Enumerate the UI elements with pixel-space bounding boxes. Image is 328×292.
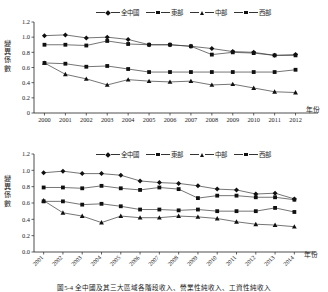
chart-top: 全中國東部中部西部 變異係數 年份 00.20.40.60.81.01.2200… (0, 0, 328, 145)
data-point-東部-2011 (235, 209, 239, 213)
x-tick-label: 2005 (109, 254, 122, 267)
data-point-西部-2005 (147, 43, 151, 47)
data-point-東部-2013 (273, 206, 277, 210)
data-point-東部-2003 (80, 203, 84, 207)
x-tick-label: 2001 (32, 254, 45, 267)
data-point-全中國-2008 (176, 181, 181, 186)
data-point-東部-2011 (273, 70, 277, 74)
data-point-東部-2006 (168, 70, 172, 74)
x-tick-label: 2004 (89, 254, 102, 267)
y-tick-label: 0.4 (22, 79, 31, 86)
data-point-全中國-2004 (99, 171, 104, 176)
x-tick-label: 2013 (263, 254, 276, 267)
y-tick-label: 1.0 (22, 33, 30, 40)
data-point-東部-2010 (215, 209, 219, 213)
data-point-全中國-2000 (42, 33, 47, 38)
y-tick-label: 1.2 (22, 18, 30, 25)
data-point-中部-2008 (176, 214, 181, 218)
data-point-中部-2009 (230, 82, 235, 86)
data-point-東部-2001 (63, 62, 67, 66)
data-point-全中國-2005 (118, 173, 123, 178)
x-tick-label: 2008 (167, 254, 180, 267)
x-tick-label: 2004 (122, 116, 135, 123)
data-point-東部-2014 (292, 210, 296, 214)
data-point-西部-2012 (254, 195, 258, 199)
x-tick-label: 2008 (206, 116, 219, 123)
data-point-西部-2005 (119, 186, 123, 190)
data-point-西部-2009 (196, 196, 200, 200)
data-point-西部-2004 (126, 42, 130, 46)
data-point-西部-2002 (61, 186, 65, 190)
x-tick-label: 2007 (147, 254, 160, 267)
x-tick-label: 2005 (143, 116, 156, 123)
y-tick-label: 0.6 (22, 199, 30, 206)
x-tick-label: 2012 (244, 254, 257, 267)
data-point-全中國-2009 (195, 183, 200, 188)
data-point-東部-2004 (100, 202, 104, 206)
data-point-西部-2002 (84, 44, 88, 48)
x-tick-label: 2010 (205, 254, 218, 267)
data-point-西部-2006 (168, 43, 172, 47)
plot-area-top: 00.20.40.60.81.01.2200020012002200320042… (0, 0, 328, 145)
x-tick-label: 2002 (80, 116, 93, 123)
data-point-西部-2001 (63, 43, 67, 47)
data-point-中部-2005 (118, 214, 123, 218)
data-point-西部-2003 (105, 39, 109, 43)
x-tick-label: 2011 (268, 116, 280, 123)
data-point-東部-2012 (294, 68, 298, 72)
x-tick-label: 2000 (38, 116, 51, 123)
data-point-西部-2000 (43, 43, 47, 47)
plot-area-bottom: 0.00.20.40.60.81.01.22001200220032004200… (0, 145, 328, 278)
data-point-西部-2008 (177, 187, 181, 191)
data-point-東部-2002 (61, 199, 65, 203)
data-point-全中國-2004 (126, 37, 131, 42)
data-point-全中國-2003 (80, 171, 85, 176)
x-tick-label: 2014 (282, 254, 295, 267)
data-point-西部-2009 (231, 50, 235, 54)
data-point-東部-2008 (177, 208, 181, 212)
data-point-全中國-2013 (273, 191, 278, 196)
data-point-全中國-2002 (60, 169, 65, 174)
data-point-西部-2010 (215, 194, 219, 198)
x-tick-label: 2009 (186, 254, 199, 267)
data-point-中部-2004 (126, 77, 131, 81)
x-tick-label: 2011 (225, 254, 238, 267)
data-point-全中國-2008 (209, 46, 214, 51)
data-point-東部-2007 (157, 208, 161, 212)
y-tick-label: 0.2 (22, 94, 30, 101)
data-point-西部-2007 (157, 186, 161, 190)
series-line-中部 (44, 63, 295, 93)
data-point-東部-2012 (254, 209, 258, 213)
data-point-東部-2005 (119, 204, 123, 208)
chart-bottom: 全中國東部中部西部 變異係數 年份 0.00.20.40.60.81.01.22… (0, 145, 328, 278)
y-tick-label: 1.0 (22, 167, 30, 174)
x-tick-label: 2003 (70, 254, 83, 267)
data-point-東部-2004 (126, 67, 130, 71)
data-point-西部-2011 (235, 194, 239, 198)
data-point-西部-2012 (294, 53, 298, 57)
x-tick-label: 2010 (247, 116, 260, 123)
y-tick-label: 0.8 (22, 183, 30, 190)
data-point-東部-2009 (231, 70, 235, 74)
data-point-東部-2009 (196, 208, 200, 212)
data-point-東部-2005 (147, 70, 151, 74)
data-point-全中國-2007 (157, 180, 162, 185)
data-point-西部-2011 (273, 53, 277, 57)
data-point-全中國-2006 (138, 178, 143, 183)
data-point-中部-2002 (61, 210, 66, 214)
data-point-西部-2001 (42, 186, 46, 190)
data-point-西部-2013 (273, 195, 277, 199)
data-point-西部-2006 (138, 188, 142, 192)
x-tick-label: 2006 (128, 254, 141, 267)
data-point-西部-2007 (189, 44, 193, 48)
data-point-西部-2014 (292, 198, 296, 202)
data-point-東部-2003 (105, 64, 109, 68)
data-point-東部-2010 (252, 70, 256, 74)
x-tick-label: 2006 (164, 116, 177, 123)
data-point-全中國-2001 (63, 32, 68, 37)
data-point-全中國-2010 (215, 187, 220, 192)
x-tick-label: 2001 (59, 116, 72, 123)
x-tick-label: 2003 (101, 116, 114, 123)
y-tick-label: 0 (27, 109, 30, 116)
